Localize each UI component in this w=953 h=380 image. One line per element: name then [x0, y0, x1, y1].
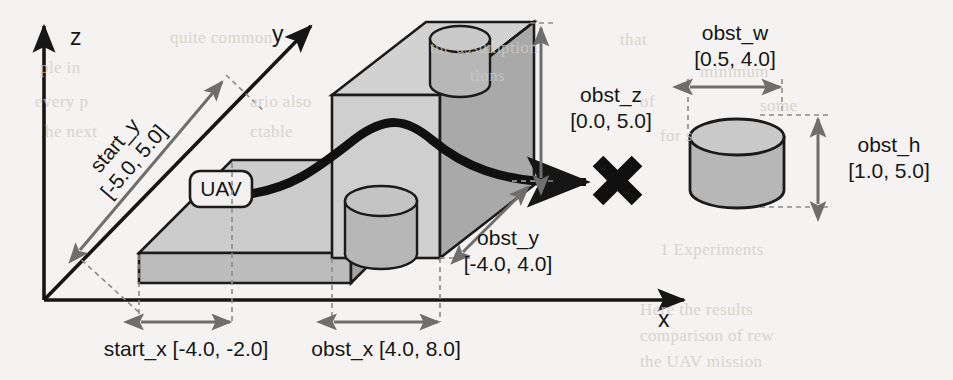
guide-start-y-lower	[75, 254, 143, 316]
legend-cylinder-top	[690, 119, 784, 155]
label-obst-w-line1: obst_w	[702, 21, 769, 45]
bleed-through-line: Here the results	[640, 300, 753, 320]
bleed-through-line: 1 Experiments	[660, 240, 764, 260]
obstacle-cylinder-lower	[345, 186, 417, 269]
bleed-through-line: tions	[470, 66, 505, 86]
label-start-y: start_y [-5.0, 5.0]	[77, 104, 171, 203]
target-x-marker	[598, 161, 637, 200]
bleed-through-line: the assumption	[430, 38, 538, 58]
obstacle-cylinder-upper	[430, 26, 490, 97]
label-obst-x: obst_x [4.0, 8.0]	[311, 337, 460, 361]
bleed-through-line: comparison of rew	[640, 326, 774, 346]
label-start-x: start_x [-4.0, -2.0]	[104, 337, 269, 361]
bleed-through-line: quite common	[170, 28, 273, 48]
bleed-through-line: some	[760, 96, 797, 116]
legend-cylinder	[690, 119, 784, 208]
uav-badge[interactable]: UAV	[190, 171, 252, 207]
bleed-through-line: of	[640, 92, 655, 112]
cylinder-lower-top	[345, 186, 417, 216]
bleed-through-line: ario also	[250, 92, 312, 112]
label-obst-y-line2: [-4.0, 4.0]	[464, 252, 553, 275]
y-axis-label: y	[272, 21, 284, 47]
bleed-through-line: ple in	[40, 58, 81, 78]
bleed-through-line: minimum	[700, 62, 769, 82]
label-obst-z-line1: obst_z	[580, 83, 642, 107]
bleed-through-line: for s	[660, 126, 693, 146]
bleed-through-line: that	[620, 30, 647, 50]
label-obst-h-line1: obst_h	[857, 133, 920, 157]
bleed-through-line: every p	[35, 92, 88, 112]
label-obst-z-line2: [0.0, 5.0]	[570, 109, 652, 132]
bleed-through-line: he next	[45, 122, 97, 142]
diagram-canvas: quite commonthe assumptionthatple intion…	[0, 0, 953, 380]
bleed-through-line: ctable	[250, 122, 293, 142]
label-obst-y-line1: obst_y	[477, 226, 539, 250]
label-obst-h-line2: [1.0, 5.0]	[848, 159, 930, 182]
uav-badge-label: UAV	[200, 177, 242, 200]
slab-front-face	[139, 253, 351, 283]
z-axis-label: z	[70, 24, 82, 50]
bleed-through-line: the UAV mission	[640, 352, 763, 372]
